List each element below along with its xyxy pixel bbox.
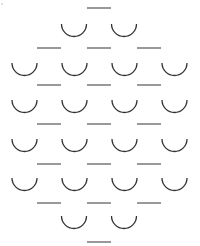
cup-arc <box>112 24 137 37</box>
cup-arc <box>162 63 187 76</box>
cup-arc <box>62 178 87 191</box>
cup-arc <box>162 178 187 191</box>
cup-arc <box>12 178 37 191</box>
lattice-shapes <box>12 8 187 242</box>
cup-arc <box>62 63 87 76</box>
cup-arc <box>162 100 187 113</box>
cup-arc <box>62 24 87 37</box>
cup-arc <box>112 178 137 191</box>
cup-arc <box>12 139 37 152</box>
cup-arc <box>112 139 137 152</box>
cup-arc <box>12 63 37 76</box>
corner-dot <box>1 3 3 5</box>
cup-arc <box>112 100 137 113</box>
cup-arc <box>112 216 137 228</box>
cup-arc <box>162 139 187 152</box>
cup-arc <box>112 63 137 76</box>
lattice-diagram <box>0 0 200 246</box>
cup-arc <box>12 100 37 113</box>
cup-arc <box>62 139 87 152</box>
cup-arc <box>62 216 87 228</box>
cup-arc <box>62 100 87 113</box>
